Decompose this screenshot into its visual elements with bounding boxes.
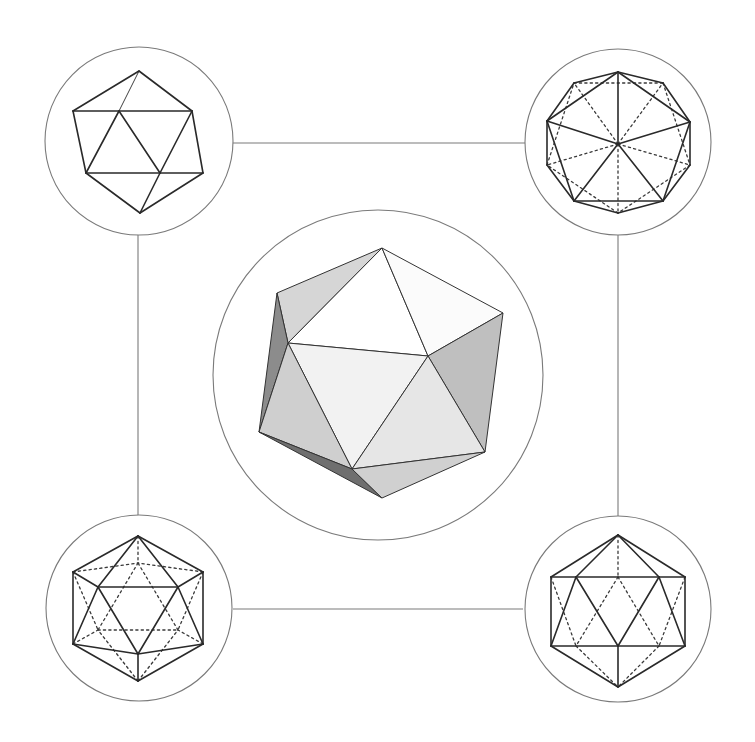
- view-top-right-icosahedron: [525, 49, 711, 235]
- diagram-canvas: [0, 0, 755, 742]
- view-bottom-right-icosahedron: [525, 516, 711, 702]
- view-bottom-left-icosahedron: [46, 515, 232, 701]
- view-center-shaded-icosahedron: [213, 210, 543, 540]
- view-frame-circle: [46, 515, 232, 701]
- view-top-left-icosahedron: [45, 47, 233, 235]
- icosahedron-diagram: [0, 0, 755, 742]
